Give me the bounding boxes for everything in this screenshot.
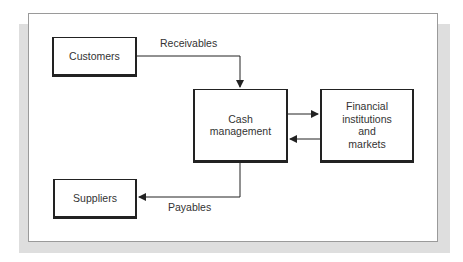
customers-label: Customers	[69, 50, 120, 63]
suppliers-label: Suppliers	[73, 192, 117, 205]
customers-node: Customers	[52, 37, 137, 77]
cash-management-label-line1: Cash	[210, 113, 271, 126]
cash-management-node: Cash management	[193, 89, 288, 163]
financial-label-line4: markets	[342, 138, 392, 151]
receivables-label: Receivables	[160, 37, 217, 49]
financial-label-line2: institutions	[342, 113, 392, 126]
financial-label-line3: and	[342, 125, 392, 138]
financial-institutions-node: Financial institutions and markets	[320, 89, 414, 163]
cash-management-label-line2: management	[210, 125, 271, 138]
payables-label: Payables	[168, 201, 211, 213]
financial-label-line1: Financial	[342, 100, 392, 113]
suppliers-node: Suppliers	[53, 179, 137, 219]
